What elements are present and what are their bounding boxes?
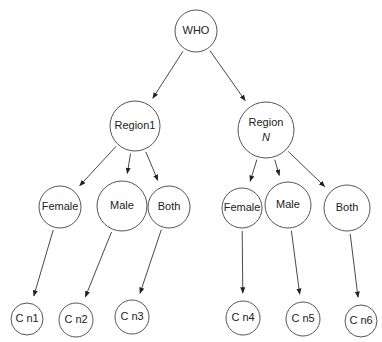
edge-region1-to-male1 [127,154,130,174]
edge-region1-to-both1 [146,152,158,181]
nodes-layer: WHORegion1RegionNFemaleMaleBothFemaleMal… [11,10,377,337]
edge-regionN-to-both2 [288,152,324,187]
node-label: C n6 [349,314,372,326]
edge-who-to-region1 [153,51,183,98]
node-regionN: RegionN [238,102,294,158]
node-label: Male [276,198,300,210]
node-label-secondary: N [262,131,270,143]
node-both2: Both [324,185,370,231]
edge-male2-to-cn5 [291,231,299,294]
node-label: Female [42,200,79,212]
node-label: Both [336,201,359,213]
node-label: C n2 [64,313,87,325]
edge-regionN-to-female2 [250,160,257,182]
node-label: Male [110,199,134,211]
node-who: WHO [175,10,217,52]
node-cn2: C n2 [59,303,93,337]
edge-regionN-to-male2 [275,160,280,176]
node-region1: Region1 [110,101,160,151]
node-both1: Both [148,186,190,228]
node-male1: Male [97,181,147,231]
node-cn4: C n4 [226,301,260,335]
node-label: Female [224,201,261,213]
node-label: C n5 [291,312,314,324]
node-label: C n4 [231,311,254,323]
who-hierarchy-tree-diagram: WHORegion1RegionNFemaleMaleBothFemaleMal… [0,0,382,342]
edge-who-to-regionN [210,51,245,101]
node-label: Both [158,200,181,212]
node-cn6: C n6 [345,305,377,337]
node-female2: Female [222,188,262,228]
node-label: C n1 [15,312,38,324]
node-label: C n3 [120,310,143,322]
edge-female2-to-cn4 [242,231,243,293]
edge-region1-to-female1 [80,147,116,186]
edges-layer [34,51,358,298]
node-label: Region [249,116,284,128]
node-male2: Male [265,182,311,228]
edge-male1-to-cn2 [85,232,111,297]
edge-female1-to-cn1 [34,230,53,296]
node-cn1: C n1 [11,303,43,335]
edge-both1-to-cn3 [140,230,161,294]
node-label: Region1 [115,119,156,131]
node-female1: Female [39,186,81,228]
edge-both2-to-cn6 [350,234,358,297]
node-cn3: C n3 [115,300,149,334]
node-label: WHO [183,24,210,36]
node-cn5: C n5 [286,302,320,336]
